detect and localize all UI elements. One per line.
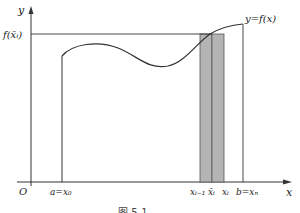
x-axis-label: x [286, 186, 293, 199]
tick-label-a: a=x₀ [50, 187, 72, 197]
shaded-strip-right [212, 34, 224, 182]
x-axis-arrow-icon [283, 180, 292, 185]
y-axis-label: y [17, 4, 25, 17]
shaded-strip-left [200, 34, 212, 182]
figure-caption: 图 5-1 [118, 207, 148, 213]
curve-label: y=f(x) [244, 13, 276, 24]
origin-label: O [19, 186, 27, 197]
tick-label-b: b=xₙ [236, 187, 258, 197]
riemann-diagram: y x O f(x̄ᵢ) y=f(x) a=x₀ xᵢ₋₁ x̄ᵢ xᵢ b=x… [0, 0, 300, 213]
tick-label-xbar-i: x̄ᵢ [208, 187, 215, 197]
tick-label-x-i-minus-1: xᵢ₋₁ [190, 187, 205, 197]
tick-label-x-i: xᵢ [222, 187, 229, 197]
y-axis-arrow-icon [29, 6, 34, 14]
f-xbar-label: f(x̄ᵢ) [2, 29, 22, 40]
